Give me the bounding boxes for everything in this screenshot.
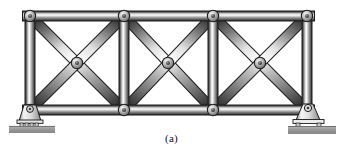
joint-top-panel-2 xyxy=(207,10,219,22)
joint-bottom-panel-1 xyxy=(118,104,130,116)
vertical-panel-1 xyxy=(119,14,130,112)
bottom-chord xyxy=(22,105,315,116)
joint-top-right xyxy=(301,10,313,22)
vertical-right-end xyxy=(302,14,313,112)
truss-joints xyxy=(24,10,313,116)
top-chord xyxy=(22,11,315,22)
joint-mid-panel-2 xyxy=(162,57,174,69)
vertical-left-end xyxy=(25,14,36,112)
joint-mid-panel-1 xyxy=(71,57,83,69)
joint-bottom-panel-2 xyxy=(207,104,219,116)
figure-caption: (a) xyxy=(0,132,343,144)
joint-mid-panel-3 xyxy=(254,57,266,69)
joint-top-left xyxy=(24,10,36,22)
joint-top-panel-1 xyxy=(118,10,130,22)
figure-canvas: (a) xyxy=(0,0,343,157)
vertical-panel-2 xyxy=(208,14,219,112)
